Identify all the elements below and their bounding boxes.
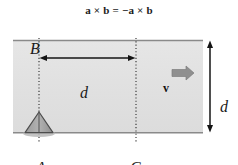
label-point-c: C — [130, 160, 141, 165]
label-horizontal-distance: d — [80, 85, 88, 101]
caption-formula: a × b = −a × b — [0, 3, 238, 17]
diagram-canvas: B A C d d v — [0, 20, 238, 165]
label-point-b: B — [30, 41, 40, 57]
figure-root: a × b = −a × b — [0, 0, 238, 165]
vertical-dimension-arrow — [207, 41, 213, 133]
label-velocity-vector: v — [163, 82, 169, 94]
label-vertical-distance: d — [220, 99, 228, 115]
label-point-a: A — [36, 160, 46, 165]
